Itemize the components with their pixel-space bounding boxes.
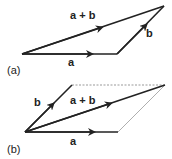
label-b: b	[146, 27, 153, 39]
vector-sum-arrow-icon	[22, 28, 100, 54]
label-sum: a + b	[70, 9, 96, 21]
panel-b-parallelogram: a b a + b (b)	[7, 85, 165, 155]
panel-caption: (a)	[7, 64, 20, 76]
panel-a-triangle: a b a + b (a)	[7, 6, 164, 76]
label-sum: a + b	[70, 94, 96, 106]
vector-addition-diagram: a b a + b (a) a b a + b (b)	[0, 0, 172, 159]
label-a: a	[70, 135, 77, 147]
label-a: a	[68, 56, 75, 68]
label-b: b	[34, 96, 41, 108]
panel-caption: (b)	[7, 143, 20, 155]
vector-b-arrow-icon	[117, 26, 145, 54]
vector-sum-arrow-icon	[25, 104, 109, 132]
